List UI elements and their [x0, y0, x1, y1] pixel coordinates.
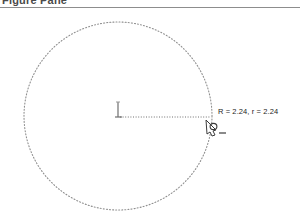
figure-pane-window: Figure Pane R = 2.24, r = 2.24 [0, 0, 300, 223]
radius-annotation-label: R = 2.24, r = 2.24 [218, 107, 278, 116]
window-title: Figure Pane [2, 0, 67, 6]
drawing-canvas[interactable]: R = 2.24, r = 2.24 [0, 8, 300, 223]
